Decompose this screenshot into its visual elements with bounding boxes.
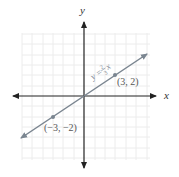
equation-label: y = 2 3 x [87,60,113,84]
coordinate-plane: x y (3, 2) (−3, −2) y = 2 3 x [0,0,179,177]
point-neg3-neg2 [51,115,55,119]
y-axis-label: y [79,4,85,16]
point-label-3-2: (3, 2) [117,76,139,88]
point-label-neg3-neg2: (−3, −2) [44,122,77,134]
x-axis-label: x [163,89,169,101]
